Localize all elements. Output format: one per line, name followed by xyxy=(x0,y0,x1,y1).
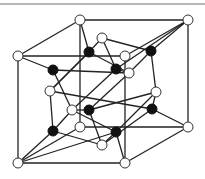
white-atom-c7 xyxy=(183,122,193,132)
edge-c3-b4 xyxy=(151,20,188,51)
crystal-lattice-diagram xyxy=(0,0,205,179)
white-atom-w1 xyxy=(97,33,107,43)
black-atom-b8 xyxy=(111,127,121,137)
white-atom-c8 xyxy=(75,122,85,132)
white-atom-c5 xyxy=(13,158,23,168)
edge-c7-b6 xyxy=(152,109,188,127)
white-atom-c4 xyxy=(120,51,130,61)
edge-c6-c7 xyxy=(125,127,188,163)
white-atom-c6 xyxy=(120,158,130,168)
black-atom-b3 xyxy=(111,64,121,74)
black-atom-b5 xyxy=(84,105,94,115)
edge-b2-w5 xyxy=(53,70,72,110)
white-atom-c2 xyxy=(75,15,85,25)
white-atom-w3 xyxy=(151,87,161,97)
white-atom-w4 xyxy=(45,86,55,96)
edge-w4-b7 xyxy=(50,91,53,131)
white-atom-c3 xyxy=(183,15,193,25)
black-atom-b2 xyxy=(48,65,58,75)
black-atom-b1 xyxy=(84,47,94,57)
white-atom-c1 xyxy=(13,51,23,61)
black-atom-b6 xyxy=(147,104,157,114)
white-atom-w2 xyxy=(124,68,134,78)
edge-c1-c2 xyxy=(18,20,80,56)
edge-c5-b7 xyxy=(18,131,53,163)
white-atom-w6 xyxy=(97,140,107,150)
edge-c3-c4 xyxy=(125,20,188,56)
edge-w1-b4 xyxy=(102,38,151,51)
black-atom-b7 xyxy=(48,126,58,136)
edge-b4-w3 xyxy=(151,51,156,92)
white-atom-w5 xyxy=(67,105,77,115)
edge-c1-b2 xyxy=(18,56,53,70)
black-atom-b4 xyxy=(146,46,156,56)
